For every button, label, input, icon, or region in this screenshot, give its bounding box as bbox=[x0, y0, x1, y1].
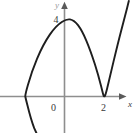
cubic-curve bbox=[25, 1, 129, 133]
y-tick-4-label: 4 bbox=[54, 14, 59, 25]
x-axis-arrow-icon bbox=[119, 93, 127, 100]
x-axis bbox=[0, 93, 127, 100]
graph-figure: 0 2 4 x y bbox=[0, 0, 135, 133]
x-axis-label: x bbox=[127, 99, 132, 109]
cubic-graph-svg: 0 2 4 x y bbox=[0, 0, 135, 133]
y-axis-arrow-icon bbox=[61, 2, 68, 9]
x-tick-2-label: 2 bbox=[101, 102, 106, 113]
origin-label: 0 bbox=[51, 102, 56, 113]
y-axis-label: y bbox=[54, 0, 59, 10]
